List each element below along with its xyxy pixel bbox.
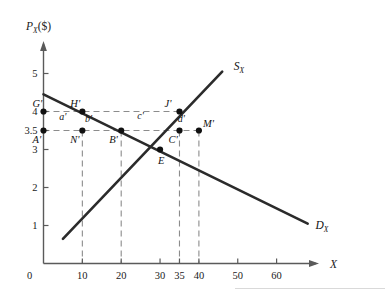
data-point-J <box>176 108 182 114</box>
chart-svg: 1233.545102030354050600PX($)XDXSXa'b'c'd… <box>0 0 387 298</box>
area-label: a' <box>59 111 67 122</box>
x-tick-label: 50 <box>233 270 244 281</box>
x-tick-label: 30 <box>155 270 166 281</box>
x-tick-label: 60 <box>271 270 282 281</box>
origin-label: 0 <box>27 270 32 281</box>
data-point-H <box>79 108 85 114</box>
data-point-M <box>196 127 202 133</box>
area-label: b' <box>85 113 93 124</box>
curves: DXSX <box>44 60 329 239</box>
x-axis-arrow <box>309 260 319 267</box>
area-label: c' <box>137 110 144 121</box>
bottom-divider <box>235 288 385 289</box>
chart-figure: 1233.545102030354050600PX($)XDXSXa'b'c'd… <box>0 0 387 298</box>
curve-label-sx: SX <box>234 60 245 75</box>
y-tick-label: 2 <box>32 182 37 193</box>
x-axis-title: X <box>329 258 338 270</box>
point-label-N: N' <box>69 134 80 145</box>
point-label-E: E <box>157 155 165 166</box>
x-tick-label: 35 <box>174 270 185 281</box>
point-label-G: G' <box>33 98 44 109</box>
point-label-H: H' <box>69 98 81 109</box>
data-point-A <box>40 127 46 133</box>
data-point-G <box>40 108 46 114</box>
y-tick-label: 1 <box>32 220 37 231</box>
data-point-B <box>118 127 124 133</box>
point-label-M: M' <box>202 118 215 129</box>
y-tick-label: 3 <box>32 144 37 155</box>
curve-s-x <box>63 72 222 239</box>
tick-marks: 1233.545102030354050600 <box>24 68 281 280</box>
y-tick-label: 5 <box>32 68 37 79</box>
curve-label-dx: DX <box>314 219 328 234</box>
x-tick-label: 10 <box>77 270 88 281</box>
x-tick-label: 40 <box>194 270 205 281</box>
point-label-C: C' <box>168 134 178 145</box>
point-label-B: B' <box>109 134 118 145</box>
y-axis-arrow <box>40 41 47 51</box>
x-tick-label: 20 <box>116 270 127 281</box>
point-label-J: J' <box>164 98 172 109</box>
point-label-A: A' <box>32 134 42 145</box>
y-axis-title: PX($) <box>25 20 51 35</box>
data-point-E <box>157 146 163 152</box>
data-point-N <box>79 127 85 133</box>
